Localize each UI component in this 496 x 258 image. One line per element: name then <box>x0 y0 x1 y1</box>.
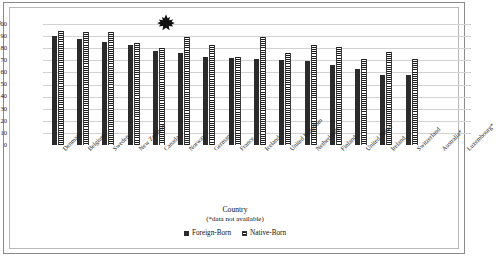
y-axis-tick-labels: 0102030405060708090100 <box>0 24 7 145</box>
maple-leaf-icon <box>155 13 177 33</box>
bar-group <box>254 24 266 145</box>
bar-foreign-born[interactable] <box>355 69 360 145</box>
bar-group <box>102 24 114 145</box>
bar-native-born[interactable] <box>134 43 140 145</box>
y-tick-70: 70 <box>0 57 7 64</box>
bar-foreign-born[interactable] <box>52 36 57 145</box>
bar-native-born[interactable] <box>58 31 64 145</box>
bar-native-born[interactable] <box>412 59 418 145</box>
x-axis-tick-labels: DenmarkBelgiumSwedenNew ZealandCanadaNor… <box>43 147 473 209</box>
chart-plot-frame: Percentage 0102030405060708090100 Denmar… <box>9 7 459 249</box>
legend-swatch-native-born <box>242 231 247 236</box>
plot-area <box>43 24 473 145</box>
legend-swatch-foreign-born <box>184 231 189 236</box>
bar-series-container <box>43 24 473 145</box>
bar-group <box>203 24 215 145</box>
bar-foreign-born[interactable] <box>254 59 259 145</box>
y-tick-40: 40 <box>0 93 7 100</box>
bar-native-born[interactable] <box>184 37 190 145</box>
legend-item-foreign-born[interactable]: Foreign-Born <box>184 229 231 237</box>
bar-foreign-born[interactable] <box>203 57 208 145</box>
bar-native-born[interactable] <box>260 37 266 145</box>
bar-foreign-born[interactable] <box>406 75 411 145</box>
bar-group <box>52 24 64 145</box>
legend-label-foreign-born: Foreign-Born <box>192 229 231 237</box>
chart-outer-border: Percentage 0102030405060708090100 Denmar… <box>3 2 465 254</box>
y-tick-100: 100 <box>0 21 7 28</box>
bar-group <box>128 24 140 145</box>
chart-legend: Foreign-Born Native-Born <box>10 229 460 237</box>
bar-group <box>406 24 418 145</box>
x-axis-title: Country (*data not available) <box>10 205 460 224</box>
bar-foreign-born[interactable] <box>102 42 107 145</box>
bar-foreign-born[interactable] <box>178 53 183 145</box>
bar-group <box>229 24 241 145</box>
y-tick-80: 80 <box>0 45 7 52</box>
x-axis-title-main: Country <box>10 205 460 215</box>
bar-foreign-born[interactable] <box>279 60 284 145</box>
y-tick-20: 20 <box>0 118 7 125</box>
bar-native-born[interactable] <box>83 32 89 145</box>
bar-native-born[interactable] <box>235 57 241 145</box>
y-tick-60: 60 <box>0 69 7 76</box>
bar-native-born[interactable] <box>108 32 114 145</box>
bar-group <box>456 24 468 145</box>
y-tick-90: 90 <box>0 33 7 40</box>
bar-native-born[interactable] <box>209 45 215 145</box>
x-axis-title-note: (*data not available) <box>10 215 460 225</box>
bar-group <box>178 24 190 145</box>
plot-clip <box>43 24 473 145</box>
y-tick-0: 0 <box>0 142 7 149</box>
bar-group <box>355 24 367 145</box>
bar-native-born[interactable] <box>361 59 367 145</box>
bar-foreign-born[interactable] <box>128 45 133 145</box>
y-tick-30: 30 <box>0 106 7 113</box>
y-tick-50: 50 <box>0 81 7 88</box>
legend-item-native-born[interactable]: Native-Born <box>242 229 286 237</box>
y-tick-10: 10 <box>0 130 7 137</box>
legend-label-native-born: Native-Born <box>250 229 286 237</box>
bar-native-born[interactable] <box>285 53 291 145</box>
bar-group <box>279 24 291 145</box>
bar-group <box>77 24 89 145</box>
